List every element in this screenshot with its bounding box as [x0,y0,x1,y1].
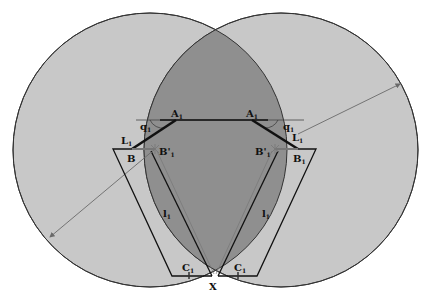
mechanism-diagram: A1 A1 q1 q1 L1 L1 B B1 B'1 B'1 l1 l1 C1 … [0,0,429,299]
label-b-left: B [127,153,135,164]
label-x: X [209,281,217,292]
